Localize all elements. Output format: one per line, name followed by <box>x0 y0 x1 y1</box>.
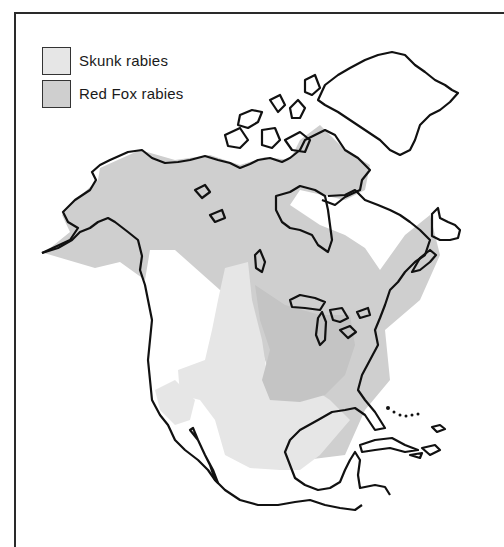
legend-label-skunk: Skunk rabies <box>79 52 168 69</box>
legend-label-red-fox: Red Fox rabies <box>79 85 184 102</box>
legend-item-skunk: Skunk rabies <box>42 44 184 77</box>
map-legend: Skunk rabies Red Fox rabies <box>42 44 184 110</box>
bahamas-islands <box>386 406 420 418</box>
legend-item-red-fox: Red Fox rabies <box>42 77 184 110</box>
skunk-swatch <box>42 47 71 75</box>
red-fox-swatch <box>42 80 71 108</box>
